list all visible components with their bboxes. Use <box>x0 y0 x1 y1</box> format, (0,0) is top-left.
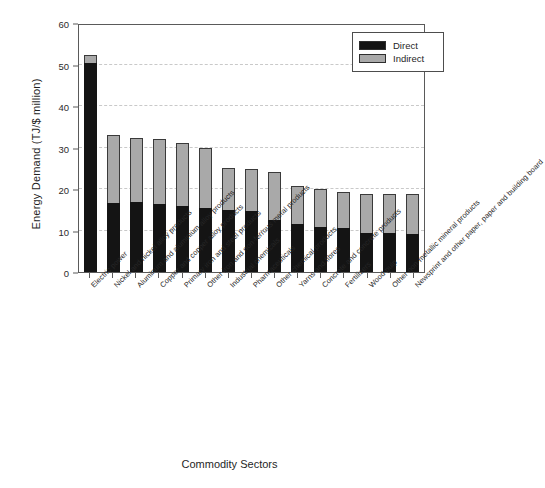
x-axis-tick-mark <box>413 273 414 278</box>
x-axis-tick-mark <box>390 273 391 278</box>
x-axis-tick-mark <box>274 273 275 278</box>
black-swatch-icon <box>359 41 386 50</box>
x-axis-tick-mark <box>228 273 229 278</box>
y-axis-tick-label: 0 <box>0 268 78 279</box>
x-axis-tick-mark <box>343 273 344 278</box>
bar-column <box>337 25 350 272</box>
bar-segment-indirect <box>176 143 189 206</box>
bar-segment-indirect <box>107 135 120 203</box>
bar-segment-indirect <box>130 138 143 202</box>
bar-segment-indirect <box>153 139 166 204</box>
x-axis-tick-mark <box>182 273 183 278</box>
bar-column <box>130 25 143 272</box>
bar-segment-indirect <box>337 192 350 228</box>
legend-item-label: Indirect <box>393 53 424 64</box>
bar-segment-indirect <box>245 169 258 211</box>
stacked-bar[interactable] <box>130 138 143 272</box>
x-axis-tick-mark <box>89 273 90 278</box>
y-axis-title: Energy Demand (TJ/$ million) <box>30 54 42 254</box>
bar-column <box>291 25 304 272</box>
x-axis-tick-mark <box>297 273 298 278</box>
gray-swatch-icon <box>359 54 386 63</box>
x-axis-tick-mark <box>158 273 159 278</box>
x-axis-tick-mark <box>205 273 206 278</box>
x-axis-tick-label: Newsprint and other paper, paper and bui… <box>413 157 545 289</box>
x-axis-tick-mark <box>320 273 321 278</box>
x-axis-tick-mark <box>251 273 252 278</box>
stacked-bar[interactable] <box>84 55 97 272</box>
x-axis-tick-mark <box>112 273 113 278</box>
legend: Direct Indirect <box>352 32 444 72</box>
x-axis-tick-mark <box>135 273 136 278</box>
stacked-bar[interactable] <box>107 135 120 272</box>
bar-segment-direct <box>84 63 97 272</box>
bar-segment-indirect <box>199 148 212 208</box>
bar-segment-indirect <box>314 189 327 227</box>
bar-segment-indirect <box>84 55 97 63</box>
x-axis-title: Commodity Sectors <box>0 458 459 470</box>
bar-column <box>84 25 97 272</box>
bar-column <box>107 25 120 272</box>
legend-item-direct: Direct <box>359 40 437 51</box>
legend-item-label: Direct <box>393 40 418 51</box>
legend-item-indirect: Indirect <box>359 53 437 64</box>
bar-segment-indirect <box>406 194 419 234</box>
x-axis-tick-mark <box>367 273 368 278</box>
bar-segment-indirect <box>360 194 373 234</box>
y-axis-tick-label: 60 <box>0 19 78 30</box>
